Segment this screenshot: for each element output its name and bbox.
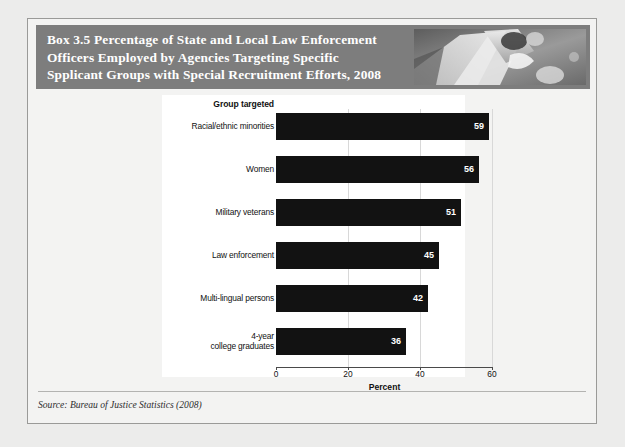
x-axis-line	[276, 367, 493, 368]
bar-4-year-college-graduates: 36	[276, 328, 406, 355]
bar-value-women: 56	[464, 156, 474, 183]
box-title: Box 3.5 Percentage of State and Local La…	[47, 31, 427, 84]
header-photo	[414, 29, 586, 85]
box-header: Box 3.5 Percentage of State and Local La…	[36, 25, 590, 89]
bar-value-law-enforcement: 45	[424, 242, 434, 269]
bar-value-4-year-college-graduates: 36	[391, 328, 401, 355]
source-divider	[38, 391, 586, 392]
bar-value-multi-lingual-persons: 42	[413, 285, 423, 312]
bar-military-veterans: 51	[276, 199, 461, 226]
bar-law-enforcement: 45	[276, 242, 439, 269]
source-note: Source: Bureau of Justice Statistics (20…	[38, 399, 202, 410]
category-label-women: Women	[162, 164, 274, 174]
gridline-60	[492, 109, 493, 367]
category-label-military-veterans: Military veterans	[162, 207, 274, 217]
tick-label-40: 40	[405, 369, 435, 379]
bar-racial-ethnic-minorities: 59	[276, 113, 489, 140]
bar-multi-lingual-persons: 42	[276, 285, 428, 312]
header-photo-image	[414, 29, 586, 85]
category-label-racial-ethnic-minorities: Racial/ethnic minorities	[162, 121, 274, 131]
y-axis-title: Group targeted	[162, 99, 274, 109]
category-label-law-enforcement: Law enforcement	[162, 250, 274, 260]
bar-value-military-veterans: 51	[446, 199, 456, 226]
tick-label-20: 20	[333, 369, 363, 379]
category-label-multi-lingual-persons: Multi-lingual persons	[162, 293, 274, 303]
tick-label-60: 60	[477, 369, 507, 379]
box-frame: Box 3.5 Percentage of State and Local La…	[27, 18, 597, 424]
chart-panel: Group targeted Racial/ethnic minorities …	[162, 95, 465, 377]
gridline-40	[420, 109, 421, 367]
category-label-4-year-college-graduates: 4-year college graduates	[162, 331, 274, 351]
tick-label-0: 0	[261, 369, 291, 379]
bar-value-racial-ethnic-minorities: 59	[474, 113, 484, 140]
bar-women: 56	[276, 156, 479, 183]
